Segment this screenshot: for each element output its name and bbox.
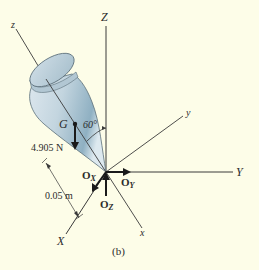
Oy-arrowhead-icon [123, 168, 131, 176]
Z-label: Z [101, 10, 108, 24]
top-body [24, 47, 106, 172]
weight-label: 4.905 N [31, 142, 63, 153]
angle-label: 60° [83, 119, 97, 130]
local-x-label: x [139, 227, 145, 238]
X-label: X [56, 234, 65, 248]
dimension-line [42, 158, 83, 219]
figure-caption: (b) [112, 245, 125, 258]
Ox-label: OX [82, 169, 97, 183]
local-y-label: y [185, 107, 191, 118]
Oz-label: OZ [100, 198, 114, 212]
dimension-label: 0.05 m [45, 190, 73, 201]
diagram-canvas: Z Y X y x z G 60° 4.905 N 0.05 m OX OY O… [0, 0, 259, 270]
local-z-label: z [10, 19, 15, 30]
local-y-axis [106, 116, 183, 172]
Y-label: Y [236, 165, 244, 179]
angle-arrow-icon [102, 126, 106, 130]
Oy-label: OY [121, 176, 136, 190]
free-body-diagram: Z Y X y x z G 60° 4.905 N 0.05 m OX OY O… [0, 0, 259, 270]
G-label: G [59, 117, 68, 131]
